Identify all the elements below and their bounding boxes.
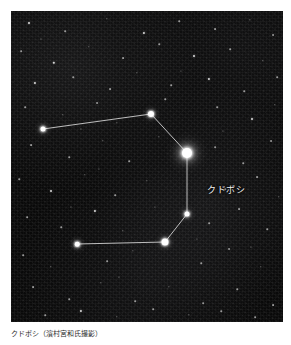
star-name-label: クドボシ (207, 183, 245, 196)
constellation-line (43, 114, 151, 129)
constellation-star (41, 127, 46, 132)
constellation-line-overlay (11, 11, 283, 322)
constellation-line (165, 214, 187, 242)
constellation-star (75, 242, 80, 247)
night-sky-photograph: クドボシ (11, 11, 283, 322)
constellation-star (185, 212, 190, 217)
figure-caption: クドボシ（濱村宮和氏撮影） (11, 329, 102, 339)
constellation-star (162, 239, 169, 246)
constellation-figure: クドボシ クドボシ（濱村宮和氏撮影） (0, 0, 291, 345)
constellation-star (182, 148, 192, 158)
constellation-line (77, 242, 165, 244)
constellation-line (151, 114, 187, 153)
constellation-star (148, 111, 154, 117)
